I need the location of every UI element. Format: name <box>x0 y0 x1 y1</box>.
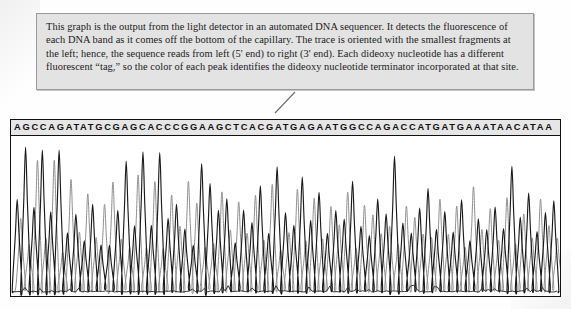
sequence-letters: AGCCAGATATGCGAGCACCCGGAAGCTCACGATGAGAATG… <box>11 123 554 132</box>
scan-tint-top-left <box>0 0 40 120</box>
chromatogram-traces <box>11 136 560 296</box>
trace-plot-area <box>11 136 560 296</box>
dna-sequencer-figure: This graph is the output from the light … <box>0 0 571 309</box>
caption-box: This graph is the output from the light … <box>36 13 534 90</box>
chromatogram-panel: AGCCAGATATGCGAGCACCCGGAAGCTCACGATGAGAATG… <box>10 119 561 297</box>
leader-line <box>274 92 296 114</box>
caption-text: This graph is the output from the light … <box>46 20 524 73</box>
sequence-letters-strip: AGCCAGATATGCGAGCACCCGGAAGCTCACGATGAGAATG… <box>11 120 560 136</box>
